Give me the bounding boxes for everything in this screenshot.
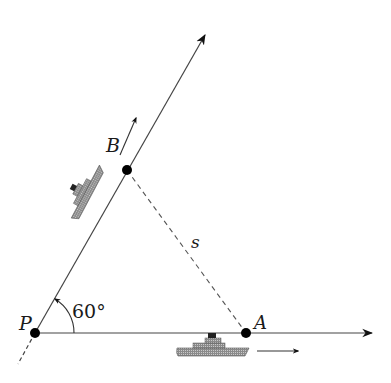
label-p: P bbox=[18, 312, 33, 334]
label-s: s bbox=[191, 232, 200, 252]
point-b bbox=[122, 165, 132, 175]
label-b: B bbox=[105, 134, 120, 156]
point-a bbox=[241, 328, 251, 338]
ship-icon-b bbox=[58, 158, 106, 221]
label-a: A bbox=[252, 312, 267, 333]
oblique-ray bbox=[35, 35, 205, 333]
ray-extension-dashed bbox=[18, 333, 35, 364]
label-angle: 60° bbox=[72, 300, 106, 322]
ship-icon-a bbox=[177, 333, 249, 356]
segment-s bbox=[127, 170, 246, 333]
ship-b-motion-arrow bbox=[120, 118, 136, 155]
diagram-canvas: P A B s 60° bbox=[0, 0, 391, 383]
